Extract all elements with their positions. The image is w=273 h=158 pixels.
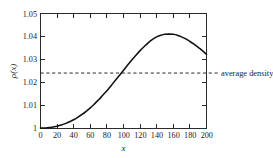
- x-tick-label-0: 0: [38, 131, 42, 140]
- y-tick-label-1: 1.01: [23, 101, 37, 110]
- x-tick-label-4: 80: [103, 131, 111, 140]
- density-curve: [41, 34, 207, 128]
- x-tick-label-6: 120: [134, 131, 146, 140]
- x-tick-label-10: 200: [201, 131, 213, 140]
- x-tick-label-5: 100: [118, 131, 130, 140]
- x-tick-label-9: 180: [184, 131, 196, 140]
- x-tick-label-3: 60: [86, 131, 94, 140]
- y-axis-ticks-left: [41, 14, 46, 129]
- y-axis-title: ρ(x): [8, 64, 18, 79]
- x-axis-ticks-top: [57, 14, 190, 19]
- x-tick-label-8: 160: [167, 131, 179, 140]
- x-tick-label-2: 40: [70, 131, 78, 140]
- x-axis-title: x: [121, 143, 126, 153]
- x-tick-label-1: 20: [53, 131, 61, 140]
- y-tick-label-5: 1.05: [23, 10, 37, 19]
- y-tick-label-4: 1.04: [23, 32, 37, 41]
- density-line-chart: 1 1.01 1.02 1.03 1.04 1.05 0 20 40 60 80…: [0, 0, 273, 158]
- y-tick-label-2: 1.02: [23, 78, 37, 87]
- y-tick-label-3: 1.03: [23, 55, 37, 64]
- y-tick-label-0: 1: [33, 124, 37, 133]
- x-tick-label-7: 140: [151, 131, 163, 140]
- average-density-label: average density: [221, 69, 273, 78]
- y-axis-ticks-right: [202, 36, 207, 105]
- figure-container: 1 1.01 1.02 1.03 1.04 1.05 0 20 40 60 80…: [0, 0, 273, 158]
